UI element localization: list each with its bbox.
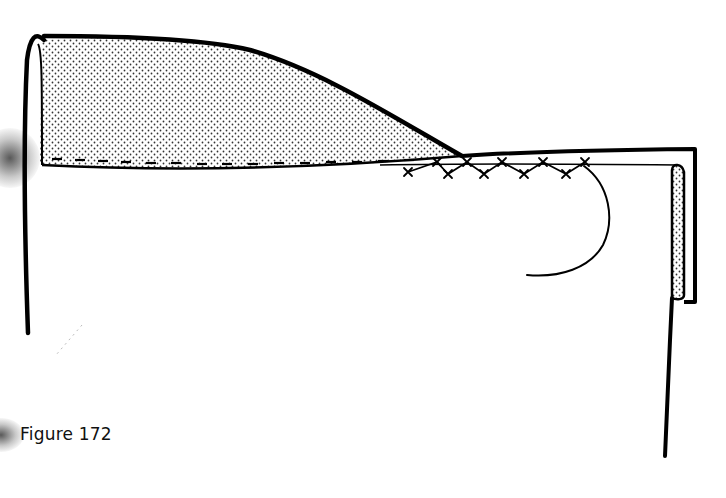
right-edge-leg [665,298,672,456]
flap-inner-left [38,44,42,165]
thread-tail [527,166,609,276]
hem-fold-line [380,164,678,165]
folded-right-edge [672,165,684,299]
catch-stitch-row [404,158,589,178]
folded-fabric-flap [40,38,462,168]
scan-artifact [56,325,82,355]
hem-top-edge [462,149,695,302]
figure-caption: Figure 172 [20,424,112,444]
